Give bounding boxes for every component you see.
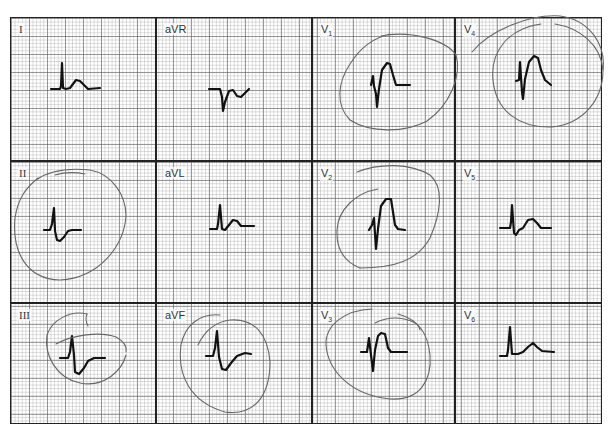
trace-V3 (361, 333, 407, 371)
circle-aVF (180, 315, 270, 413)
circle-V1 (340, 34, 458, 130)
circle-III-inner (56, 334, 126, 352)
trace-aVR (209, 89, 249, 111)
trace-I (51, 63, 100, 89)
circle-III-hook (86, 314, 88, 326)
ecg-traces-overlay (0, 0, 614, 436)
circle-II (15, 169, 126, 280)
circle-II-tick (55, 173, 85, 175)
trace-V4 (516, 56, 551, 99)
trace-aVL (210, 205, 254, 230)
circle-V3-inner (375, 318, 420, 330)
trace-II (44, 208, 81, 241)
circle-V4-inner (493, 24, 603, 127)
trace-V6 (500, 327, 554, 356)
circle-III-outer (47, 313, 126, 384)
trace-aVF (206, 331, 251, 370)
circle-V2-inner (337, 189, 378, 268)
trace-V1 (371, 63, 410, 107)
trace-V5 (500, 205, 551, 235)
circle-V2-outer (357, 166, 439, 268)
trace-V2 (369, 199, 405, 249)
trace-III (60, 336, 105, 374)
